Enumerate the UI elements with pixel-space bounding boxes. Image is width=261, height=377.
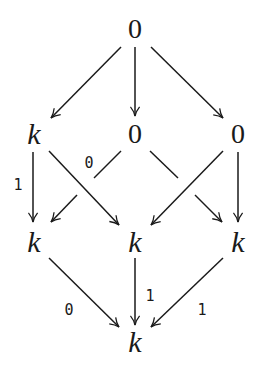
arrow-top-to-mid-right: [151, 47, 223, 118]
edge-label-mid-left-to-low-left: 1: [13, 176, 22, 194]
node-bottom-k: k: [128, 329, 141, 355]
node-top-zero: 0: [128, 16, 142, 42]
edge-label-low-right-to-bottom: 1: [197, 301, 206, 319]
node-mid-right-zero: 0: [231, 121, 245, 147]
edge-label-low-center-to-bottom: 1: [145, 287, 154, 305]
diagram-arrows: [0, 0, 261, 377]
node-low-right-k: k: [231, 229, 244, 255]
arrow-mid-center-to-low-left-part1: [94, 151, 121, 178]
node-low-left-k: k: [27, 229, 40, 255]
arrow-mid-center-to-low-left-part2: [51, 195, 77, 222]
arrow-low-right-to-bottom: [151, 258, 223, 327]
node-low-center-k: k: [128, 229, 141, 255]
edge-label-mid-center-to-low-left: 0: [84, 154, 93, 172]
node-mid-left-k: k: [27, 121, 40, 147]
node-mid-center-zero: 0: [128, 121, 142, 147]
arrow-top-to-mid-left: [51, 47, 121, 118]
arrow-mid-center-to-low-right-part2: [195, 195, 222, 222]
arrow-low-left-to-bottom: [49, 258, 119, 327]
edge-label-low-left-to-bottom: 0: [64, 301, 73, 319]
arrow-mid-center-to-low-right-part1: [150, 151, 178, 178]
